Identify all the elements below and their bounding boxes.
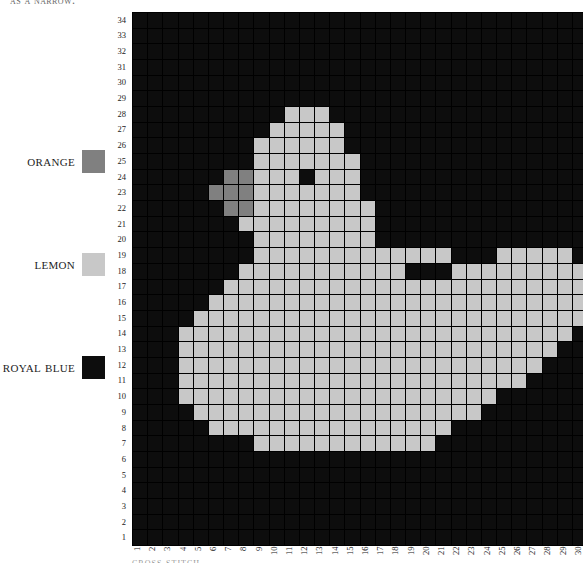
grid-cell[interactable] [239,311,253,326]
grid-cell[interactable] [239,60,253,75]
grid-cell[interactable] [391,452,405,467]
grid-cell[interactable] [467,201,481,216]
grid-cell[interactable] [209,123,223,138]
grid-cell[interactable] [421,436,435,451]
grid-cell[interactable] [452,232,466,247]
grid-cell[interactable] [315,327,329,342]
grid-cell[interactable] [133,436,147,451]
grid-cell[interactable] [452,295,466,310]
grid-cell[interactable] [512,436,526,451]
grid-cell[interactable] [482,421,496,436]
grid-cell[interactable] [376,170,390,185]
grid-cell[interactable] [254,107,268,122]
grid-cell[interactable] [163,44,177,59]
grid-cell[interactable] [452,499,466,514]
grid-cell[interactable] [209,13,223,28]
grid-cell[interactable] [148,29,162,44]
grid-cell[interactable] [194,44,208,59]
grid-cell[interactable] [300,60,314,75]
grid-cell[interactable] [543,29,557,44]
grid-cell[interactable] [391,295,405,310]
grid-cell[interactable] [330,185,344,200]
grid-cell[interactable] [436,311,450,326]
grid-cell[interactable] [543,44,557,59]
grid-cell[interactable] [209,170,223,185]
grid-cell[interactable] [452,91,466,106]
grid-cell[interactable] [558,468,572,483]
grid-cell[interactable] [361,91,375,106]
grid-cell[interactable] [421,29,435,44]
grid-cell[interactable] [436,405,450,420]
grid-cell[interactable] [527,530,541,545]
grid-cell[interactable] [345,154,359,169]
grid-cell[interactable] [482,264,496,279]
grid-cell[interactable] [406,530,420,545]
grid-cell[interactable] [163,91,177,106]
grid-cell[interactable] [467,248,481,263]
grid-cell[interactable] [133,217,147,232]
grid-cell[interactable] [421,154,435,169]
grid-cell[interactable] [482,107,496,122]
grid-cell[interactable] [543,91,557,106]
grid-cell[interactable] [573,29,583,44]
grid-cell[interactable] [270,405,284,420]
grid-cell[interactable] [543,499,557,514]
grid-cell[interactable] [376,107,390,122]
grid-cell[interactable] [436,138,450,153]
grid-cell[interactable] [330,468,344,483]
grid-cell[interactable] [361,389,375,404]
grid-cell[interactable] [300,91,314,106]
grid-cell[interactable] [315,232,329,247]
grid-cell[interactable] [179,76,193,91]
grid-cell[interactable] [209,374,223,389]
grid-cell[interactable] [467,60,481,75]
grid-cell[interactable] [179,170,193,185]
grid-cell[interactable] [361,44,375,59]
grid-cell[interactable] [224,217,238,232]
grid-cell[interactable] [406,405,420,420]
grid-cell[interactable] [391,436,405,451]
grid-cell[interactable] [436,342,450,357]
grid-cell[interactable] [361,185,375,200]
grid-cell[interactable] [285,436,299,451]
grid-cell[interactable] [497,483,511,498]
grid-cell[interactable] [467,232,481,247]
grid-cell[interactable] [224,342,238,357]
grid-cell[interactable] [209,530,223,545]
grid-cell[interactable] [163,358,177,373]
grid-cell[interactable] [512,280,526,295]
grid-cell[interactable] [163,295,177,310]
grid-cell[interactable] [406,342,420,357]
grid-cell[interactable] [406,452,420,467]
grid-cell[interactable] [482,44,496,59]
grid-cell[interactable] [452,421,466,436]
grid-cell[interactable] [239,107,253,122]
grid-cell[interactable] [436,154,450,169]
grid-cell[interactable] [421,530,435,545]
grid-cell[interactable] [497,311,511,326]
grid-cell[interactable] [270,248,284,263]
grid-cell[interactable] [239,91,253,106]
grid-cell[interactable] [270,280,284,295]
grid-cell[interactable] [254,217,268,232]
grid-cell[interactable] [527,342,541,357]
grid-cell[interactable] [573,452,583,467]
grid-cell[interactable] [558,29,572,44]
grid-cell[interactable] [406,374,420,389]
grid-cell[interactable] [254,264,268,279]
grid-cell[interactable] [315,421,329,436]
grid-cell[interactable] [421,327,435,342]
grid-cell[interactable] [148,468,162,483]
grid-cell[interactable] [512,468,526,483]
grid-cell[interactable] [497,91,511,106]
grid-cell[interactable] [179,311,193,326]
grid-cell[interactable] [467,107,481,122]
grid-cell[interactable] [527,389,541,404]
grid-cell[interactable] [285,389,299,404]
grid-cell[interactable] [254,76,268,91]
grid-cell[interactable] [133,91,147,106]
grid-cell[interactable] [512,44,526,59]
grid-cell[interactable] [543,232,557,247]
grid-cell[interactable] [315,107,329,122]
grid-cell[interactable] [482,342,496,357]
